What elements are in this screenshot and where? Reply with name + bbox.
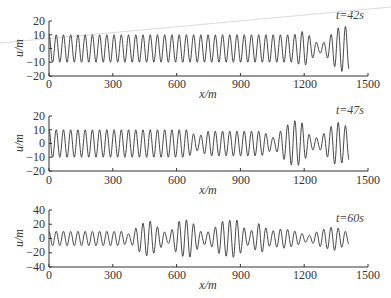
y-tick-neg10: −10	[26, 55, 45, 69]
y-axis-label: u/m	[12, 134, 26, 152]
x-tick-600: 600	[168, 173, 186, 187]
axes-frame	[49, 21, 368, 76]
time-annotation: t=47s	[336, 103, 364, 117]
panel-t47: 20 10 0 −10 −20 u/m 0 300 600 900 1200 1…	[12, 103, 380, 197]
y-tick-20: 20	[33, 14, 45, 28]
y-tick-neg20: −20	[26, 69, 45, 83]
y-tick-0: 0	[39, 136, 45, 150]
wave-series-line	[49, 26, 349, 71]
y-tick-neg10: −10	[26, 150, 45, 164]
wave-series-line	[49, 121, 349, 166]
time-annotation: t=60s	[336, 211, 364, 225]
x-axis-label: x/m	[198, 183, 217, 197]
x-tick-1500: 1500	[356, 173, 380, 187]
x-tick-300: 300	[104, 268, 122, 282]
x-tick-1500: 1500	[356, 77, 380, 91]
y-tick-20: 20	[33, 217, 45, 231]
y-tick-10: 10	[33, 123, 45, 137]
x-tick-900: 900	[232, 173, 250, 187]
x-tick-0: 0	[46, 173, 52, 187]
y-tick-neg40: −40	[26, 260, 45, 274]
y-tick-neg20: −20	[26, 245, 45, 259]
scan-artifact-line	[0, 7, 391, 43]
x-tick-0: 0	[46, 77, 52, 91]
x-tick-0: 0	[46, 268, 52, 282]
x-tick-1200: 1200	[293, 173, 317, 187]
x-axis-label: x/m	[198, 278, 217, 292]
x-tick-600: 600	[168, 77, 186, 91]
x-tick-900: 900	[232, 77, 250, 91]
axes-frame	[49, 210, 368, 267]
y-axis-label: u/m	[12, 229, 26, 247]
y-axis-label: u/m	[12, 39, 26, 57]
x-tick-300: 300	[104, 173, 122, 187]
x-tick-300: 300	[104, 77, 122, 91]
wave-profile-figure: 20 10 0 −10 −20 u/m 0 300 600 900 1200 1…	[0, 0, 391, 298]
y-tick-neg20: −20	[26, 164, 45, 178]
x-tick-1500: 1500	[356, 268, 380, 282]
y-tick-40: 40	[33, 203, 45, 217]
x-axis-label: x/m	[198, 87, 217, 101]
y-tick-20: 20	[33, 109, 45, 123]
wave-series-line	[49, 220, 349, 257]
y-tick-10: 10	[33, 28, 45, 42]
axes-frame	[49, 116, 368, 171]
x-tick-600: 600	[168, 268, 186, 282]
time-annotation: t=42s	[336, 8, 364, 22]
plot-layer	[49, 21, 368, 267]
y-tick-0: 0	[39, 231, 45, 245]
x-tick-1200: 1200	[293, 268, 317, 282]
x-tick-900: 900	[232, 268, 250, 282]
y-tick-0: 0	[39, 41, 45, 55]
x-tick-1200: 1200	[293, 77, 317, 91]
